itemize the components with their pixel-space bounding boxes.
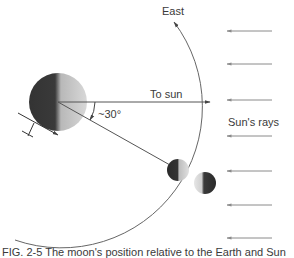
- sun-rays: [227, 31, 272, 238]
- moon-offset: [194, 172, 216, 194]
- moon-on-orbit: [167, 159, 189, 181]
- angle-arc: [90, 102, 95, 120]
- moon-orbit-arc: [15, 22, 202, 248]
- figure-caption: FIG. 2-5 The moon's position relative to…: [2, 246, 286, 258]
- sun-rays-label: Sun's rays: [228, 117, 279, 128]
- to-sun-label: To sun: [150, 89, 182, 100]
- angle-label: ~30°: [98, 109, 121, 120]
- east-label: East: [162, 6, 184, 17]
